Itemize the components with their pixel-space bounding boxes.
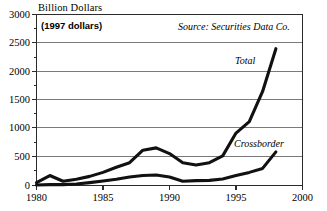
source-note: Source: Securities Data Co. xyxy=(178,22,290,32)
ytick-label-0: 0 xyxy=(0,181,30,192)
ytick-label-1500: 1500 xyxy=(0,95,30,106)
deflator-note: (1997 dollars) xyxy=(41,21,102,31)
xtick-label-1995: 1995 xyxy=(216,193,256,204)
ytick-label-1000: 1000 xyxy=(0,123,30,134)
ytick-label-500: 500 xyxy=(0,152,30,163)
ytick-label-3000: 3000 xyxy=(0,10,30,21)
xtick-label-2000: 2000 xyxy=(283,193,323,204)
series-label-total: Total xyxy=(235,56,255,66)
xtick-label-1990: 1990 xyxy=(150,193,190,204)
xtick-label-1980: 1980 xyxy=(17,193,57,204)
y-axis-title: Billion Dollars xyxy=(38,3,102,14)
ytick-label-2500: 2500 xyxy=(0,38,30,49)
series-label-crossborder: Crossborder xyxy=(234,139,284,149)
ytick-label-2000: 2000 xyxy=(0,67,30,78)
xtick-label-1985: 1985 xyxy=(83,193,123,204)
chart-figure: Billion Dollars 3000 2500 2000 1500 1000… xyxy=(0,0,327,211)
